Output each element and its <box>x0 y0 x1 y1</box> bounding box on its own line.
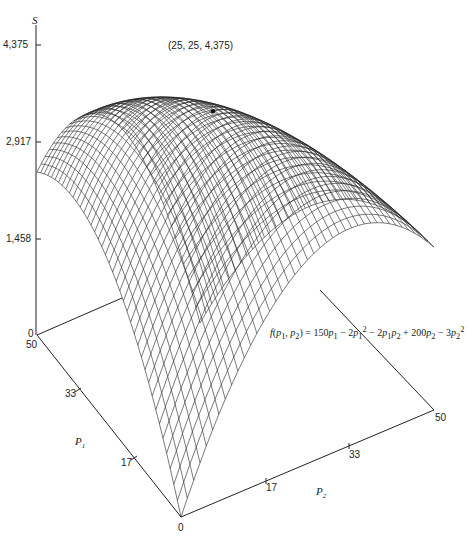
p2-tick-50: 50 <box>435 412 446 423</box>
p1-tick-50: 50 <box>26 339 37 350</box>
z-tick-2917: 2,917 <box>6 136 31 147</box>
z-tick-4375: 4,375 <box>3 39 28 50</box>
surface-mesh <box>37 97 434 517</box>
p2-axis-title: P2 <box>316 485 326 500</box>
function-equation: f(p1, p2) = 150p1 − 2p12 − 2p1p2 + 200p2… <box>270 325 464 341</box>
origin-label: 0 <box>178 522 184 533</box>
surface-plot <box>0 0 468 536</box>
z-tick-1458: 1,458 <box>6 233 31 244</box>
peak-annotation: (25, 25, 4,375) <box>168 40 233 51</box>
p1-tick-17: 17 <box>121 457 132 468</box>
z-axis-title: S <box>32 14 38 26</box>
p2-tick-17: 17 <box>266 482 277 493</box>
p1-axis <box>37 335 181 517</box>
p1-tick-33: 33 <box>65 388 76 399</box>
p1-axis-title: P1 <box>75 435 85 450</box>
z-tick-0: 0 <box>28 328 34 339</box>
peak-marker <box>211 109 215 113</box>
p2-tick-33: 33 <box>349 449 360 460</box>
p2-axis <box>181 410 434 517</box>
back-edge-p1 <box>37 298 122 335</box>
back-edge-p2 <box>320 290 434 410</box>
